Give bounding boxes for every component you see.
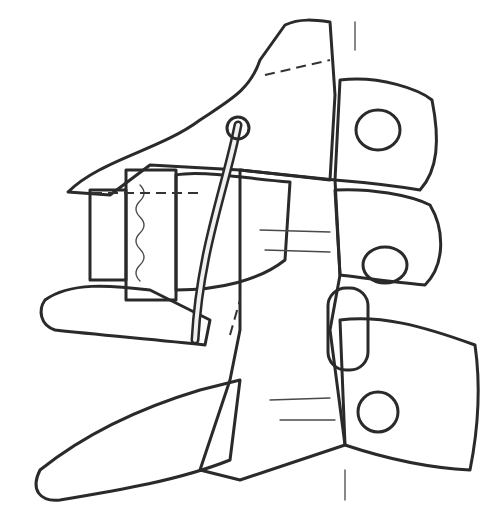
facet-lower xyxy=(358,392,398,432)
facet-middle xyxy=(363,247,407,283)
illustration-canvas xyxy=(0,0,496,519)
facet-upper xyxy=(356,110,400,150)
vertebra-c4 xyxy=(340,319,478,470)
bone-graft xyxy=(176,173,290,290)
implant-texture xyxy=(136,185,144,281)
lateral-mass xyxy=(200,170,345,480)
spine-illustration xyxy=(0,0,496,519)
implant-block xyxy=(126,170,176,300)
implant-front xyxy=(90,190,126,280)
vertebra-c3 xyxy=(335,190,441,285)
vertebra-c2 xyxy=(335,79,436,190)
upper-bone-mass xyxy=(68,20,335,195)
trajectory-line-top xyxy=(265,60,330,75)
